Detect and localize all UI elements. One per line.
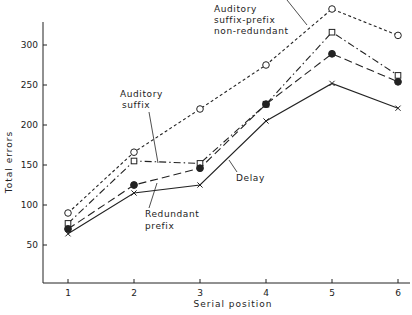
annotation-leader	[149, 183, 157, 208]
series-line	[68, 83, 398, 233]
annotation-delay: Delay	[229, 160, 265, 183]
annotation-line: Delay	[236, 173, 265, 183]
filled-circle-marker	[131, 182, 138, 189]
x-tick-label: 5	[329, 288, 335, 298]
annotation-line: Auditory	[214, 4, 257, 14]
series-group	[65, 6, 402, 237]
filled-circle-marker	[263, 101, 270, 108]
series-auditory-suffix-prefix-non-redundant	[65, 6, 402, 217]
annotation-line: Auditory	[120, 89, 163, 99]
series-auditory-suffix	[65, 29, 401, 226]
open-square-marker	[395, 73, 401, 79]
annotation-line: non-redundant	[214, 26, 289, 36]
annotation-leader	[287, 0, 307, 25]
filled-circle-marker	[395, 78, 402, 85]
line-chart: 50100150200250300 123456 Total errors Se…	[0, 0, 412, 315]
open-square-marker	[329, 29, 335, 35]
x-tick-label: 6	[395, 288, 401, 298]
y-tick-label: 50	[27, 240, 39, 250]
annotation-line: prefix	[145, 221, 174, 231]
annotation-suffix-prefix-non-redundant: Auditory suffix-prefix non-redundant	[214, 4, 289, 36]
y-tick-label: 150	[21, 160, 38, 170]
filled-circle-marker	[197, 165, 204, 172]
cross-marker	[263, 118, 268, 123]
open-circle-marker	[131, 149, 138, 156]
y-tick-label: 200	[21, 120, 38, 130]
y-axis-label: Total errors	[4, 131, 14, 194]
annotation-line: suffix	[122, 100, 150, 110]
open-circle-marker	[395, 32, 402, 39]
filled-circle-marker	[329, 50, 336, 57]
x-ticks: 123456	[65, 279, 401, 298]
annotation-line: suffix-prefix	[214, 15, 275, 25]
y-tick-label: 100	[21, 200, 38, 210]
open-square-marker	[131, 158, 137, 164]
open-circle-marker	[329, 6, 336, 13]
annotation-leader-top	[287, 0, 307, 25]
axes	[43, 22, 410, 283]
annotation-line: Redundant	[145, 209, 199, 219]
series-delay	[65, 81, 400, 237]
open-circle-marker	[65, 210, 72, 217]
x-tick-label: 3	[197, 288, 203, 298]
annotation-leader	[229, 160, 237, 172]
y-tick-label: 250	[21, 80, 38, 90]
x-axis-label: Serial position	[194, 299, 273, 309]
x-tick-label: 2	[131, 288, 137, 298]
x-tick-label: 4	[263, 288, 269, 298]
open-circle-marker	[263, 62, 270, 69]
cross-marker	[395, 106, 400, 111]
open-circle-marker	[197, 106, 204, 113]
series-line	[68, 9, 398, 213]
y-tick-label: 300	[21, 40, 38, 50]
cross-marker	[329, 81, 334, 86]
annotation-auditory-suffix: Auditory suffix	[120, 89, 163, 163]
x-tick-label: 1	[65, 288, 71, 298]
